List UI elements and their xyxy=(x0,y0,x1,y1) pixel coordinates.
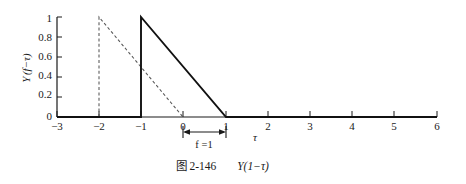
y-axis xyxy=(57,17,62,117)
annotation-f-label: f =1 xyxy=(195,139,212,150)
x-tick-label: −2 xyxy=(93,120,105,132)
y-tick-label: 0.2 xyxy=(38,88,52,100)
y-tick-labels: 1 0.8 0.6 0.4 0.2 0 xyxy=(38,12,52,122)
x-tick-label: 5 xyxy=(391,120,397,132)
x-tick-label: −3 xyxy=(51,120,63,132)
figure-caption: 图 2-146 Y(1−τ) xyxy=(176,160,269,173)
y-axis-label-paren-close: ) xyxy=(20,53,33,58)
x-tick-label: 3 xyxy=(307,120,313,132)
x-tick-label: 2 xyxy=(265,120,271,132)
x-axis-label: τ xyxy=(253,131,258,143)
chart-plot: Y(f−τ) 1 0.8 0.6 0.4 0.2 0 xyxy=(0,0,466,184)
caption-figure-number: 图 2-146 xyxy=(176,160,217,172)
y-axis-label: Y(f−τ) xyxy=(20,53,33,83)
x-tick-label: −1 xyxy=(135,120,147,132)
x-tick-label: 6 xyxy=(434,120,440,132)
x-tick-label: 4 xyxy=(349,120,355,132)
y-tick-label: 1 xyxy=(47,12,53,24)
figure-container: Y(f−τ) 1 0.8 0.6 0.4 0.2 0 xyxy=(0,0,466,184)
annotation-f-span: f =1 xyxy=(183,126,226,150)
svg-text:Y(f−τ): Y(f−τ) xyxy=(20,53,33,83)
x-tick-labels: −3 −2 −1 0 1 2 3 4 5 6 xyxy=(51,120,440,132)
caption-expression: Y(1−τ) xyxy=(237,160,269,173)
y-tick-label: 0.8 xyxy=(38,31,52,43)
y-tick-label: 0.4 xyxy=(38,69,52,81)
y-tick-label: 0.6 xyxy=(38,50,52,62)
series-solid-main xyxy=(57,17,437,117)
